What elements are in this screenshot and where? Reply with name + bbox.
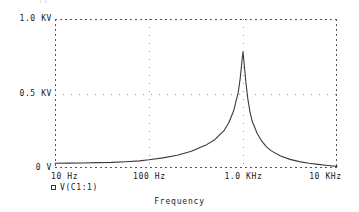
x-tick-label: 1.0 KHz xyxy=(224,172,262,181)
y-tick-label: 0 V xyxy=(0,163,52,172)
plot-area xyxy=(55,19,337,168)
x-tick-label: 100 Hz xyxy=(133,172,166,181)
x-axis-title: Frequency xyxy=(0,197,359,206)
y-axis-labels: 0 V 0.5 KV 1.0 KV xyxy=(0,0,52,212)
y-tick-label: 0.5 KV xyxy=(0,89,52,98)
legend[interactable]: V(C1:1) xyxy=(51,183,98,192)
y-tick-label: 1.0 KV xyxy=(0,14,52,23)
x-tick-label: 10 KHz xyxy=(309,172,342,181)
square-outline-marker-icon xyxy=(51,185,56,190)
legend-label: V(C1:1) xyxy=(60,183,98,192)
pspice-plot-window: · ·,, ··· 0 V 0.5 KV 1.0 KV 10 Hz100 Hz1… xyxy=(0,0,359,212)
frequency-response-curve xyxy=(55,19,337,168)
x-tick-label: 10 Hz xyxy=(51,172,78,181)
